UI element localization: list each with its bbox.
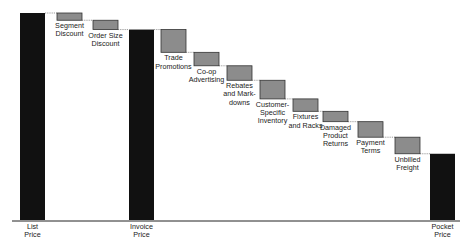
bar-pocket-price xyxy=(430,154,455,220)
bar-unbilled-freight xyxy=(395,137,420,154)
bar-damaged-product-returns xyxy=(323,111,348,121)
category-label: Invoice Price xyxy=(130,223,153,239)
category-label: Order Size Discount xyxy=(88,32,122,48)
category-label: Trade Promotions xyxy=(155,54,191,70)
category-label: Rebates and Mark- downs xyxy=(223,82,255,107)
bar-order-size-discount xyxy=(93,20,118,29)
category-label: Payment Terms xyxy=(356,139,384,155)
category-label: Segment Discount xyxy=(55,22,84,38)
bar-payment-terms xyxy=(358,122,383,138)
bar-co-op-advertising xyxy=(194,52,219,65)
category-label: Customer- Specific Inventory xyxy=(256,101,290,126)
category-label: Unbilled Freight xyxy=(395,156,421,172)
bar-invoice-price xyxy=(129,30,154,220)
bar-trade-promotions xyxy=(161,30,186,53)
category-label: List Price xyxy=(24,223,40,239)
bar-list-price xyxy=(20,13,45,220)
category-label: Damaged Product Returns xyxy=(320,124,351,149)
category-label: Co-op Advertising xyxy=(189,68,225,84)
category-label: Fixtures and Racks xyxy=(289,113,323,129)
bars xyxy=(20,13,455,220)
bar-fixtures-and-racks xyxy=(293,99,318,111)
category-label: Pocket Price xyxy=(432,223,454,239)
bar-segment-discount xyxy=(57,13,82,20)
bar-customer-specific-inventory xyxy=(260,80,285,99)
bar-rebates-and-mark-downs xyxy=(227,66,252,80)
